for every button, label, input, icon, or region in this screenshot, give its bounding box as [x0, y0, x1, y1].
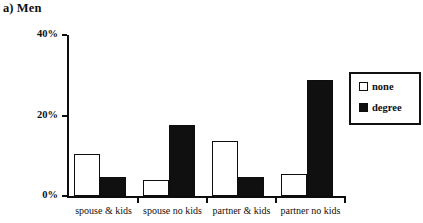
bar-none-1 — [143, 180, 169, 196]
legend-label-none: none — [372, 81, 394, 92]
x-axis-category-label: spouse & kids — [75, 205, 132, 216]
bar-degree-1 — [169, 125, 195, 196]
x-tick-mark — [206, 198, 208, 203]
bar-degree-3 — [307, 80, 333, 196]
chart-page: a) Men 0%20%40% spouse & kidsspouse no k… — [0, 0, 423, 223]
bar-none-2 — [212, 141, 238, 196]
y-tick-mark — [62, 115, 67, 117]
x-tick-mark — [137, 198, 139, 203]
x-tick-mark — [275, 198, 277, 203]
bar-none-0 — [74, 154, 100, 196]
legend-item-degree: degree — [359, 102, 402, 113]
bar-none-3 — [281, 174, 307, 196]
x-axis-category-label: spouse no kids — [143, 205, 202, 216]
bar-degree-2 — [238, 177, 264, 196]
legend-swatch-degree-icon — [359, 103, 368, 112]
x-axis-category-label: partner no kids — [281, 205, 341, 216]
y-tick-mark — [62, 195, 67, 197]
x-tick-mark — [344, 198, 346, 203]
x-axis-category-label: partner & kids — [213, 205, 271, 216]
legend-label-degree: degree — [372, 102, 402, 113]
bar-degree-0 — [100, 177, 126, 196]
y-tick-label: 20% — [24, 109, 58, 120]
y-axis-line — [67, 35, 69, 198]
chart-legend: none degree — [349, 72, 421, 125]
y-tick-label: 40% — [24, 28, 58, 39]
legend-swatch-none-icon — [359, 82, 368, 91]
legend-item-none: none — [359, 81, 394, 92]
y-tick-label: 0% — [24, 189, 58, 200]
y-tick-mark — [62, 34, 67, 36]
